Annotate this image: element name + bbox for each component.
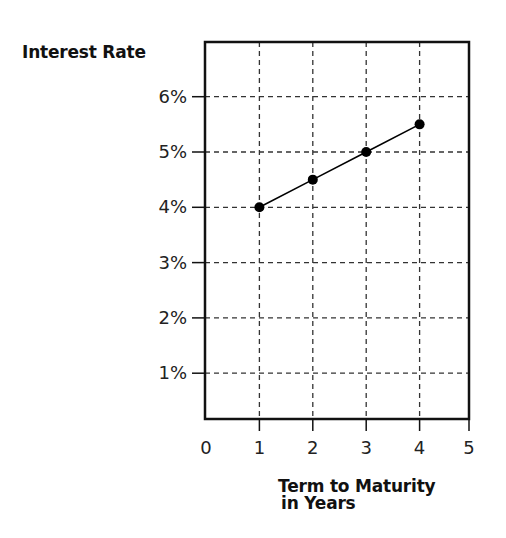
x-tick-label: 0 bbox=[200, 437, 211, 458]
data-point-marker bbox=[415, 119, 425, 129]
data-point-marker bbox=[361, 147, 371, 157]
plot-frame bbox=[205, 42, 469, 419]
grid-lines bbox=[205, 42, 469, 419]
x-tick-label: 1 bbox=[254, 437, 265, 458]
y-tick-label: 2% bbox=[158, 307, 187, 328]
y-tick-label: 5% bbox=[158, 141, 187, 162]
y-tick-label: 3% bbox=[158, 252, 187, 273]
y-tick-label: 4% bbox=[158, 196, 187, 217]
line-chart: 1%2%3%4%5%6%012345 bbox=[0, 0, 506, 538]
x-tick-label: 3 bbox=[360, 437, 371, 458]
x-tick-label: 2 bbox=[307, 437, 318, 458]
series-line bbox=[259, 124, 419, 207]
x-tick-label: 4 bbox=[414, 437, 425, 458]
y-tick-label: 6% bbox=[158, 86, 187, 107]
data-point-marker bbox=[254, 202, 264, 212]
y-tick-label: 1% bbox=[158, 362, 187, 383]
data-point-marker bbox=[308, 175, 318, 185]
x-tick-label: 5 bbox=[463, 437, 474, 458]
data-series bbox=[254, 119, 424, 212]
